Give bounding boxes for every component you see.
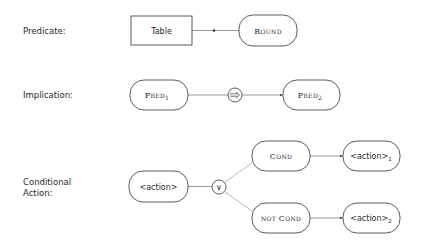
implication-label: Implication: (23, 90, 73, 100)
action-node: <action> (129, 171, 188, 202)
pred1-subscript: 1 (165, 94, 169, 101)
branch-edge-not-cond (225, 192, 252, 211)
action1-text: <action> (350, 152, 388, 161)
cond-node: Cond (252, 141, 310, 171)
row-predicate: Predicate: Table Round (23, 15, 297, 46)
predicate-label: Predicate: (23, 26, 66, 36)
action1-subscript: 1 (388, 156, 392, 162)
pred1-node: Pred1 (130, 80, 188, 110)
round-text: Round (254, 27, 282, 36)
table-node: Table (131, 16, 192, 45)
not-cond-text: not Cond (261, 214, 301, 223)
round-node: Round (239, 15, 297, 46)
svg-text:<action>1: <action>1 (350, 152, 392, 162)
junction-dot-icon (213, 29, 215, 31)
pred2-subscript: 2 (318, 94, 322, 101)
conditional-label-line1: Conditional (23, 177, 71, 187)
pred1-text: Pred (145, 91, 165, 100)
implies-operator (228, 88, 242, 102)
action2-text: <action> (350, 214, 388, 223)
row-implication: Implication: Pred1 Pred2 (23, 80, 340, 110)
svg-text:<action>2: <action>2 (350, 214, 392, 224)
pred2-node: Pred2 (283, 80, 340, 110)
action2-node: <action>2 (343, 203, 400, 233)
action2-subscript: 2 (388, 218, 392, 224)
cond-text: Cond (270, 152, 292, 161)
table-text: Table (150, 27, 172, 36)
action1-node: <action>1 (343, 141, 400, 171)
or-icon: ∨ (216, 183, 222, 192)
not-cond-node: not Cond (252, 203, 310, 233)
or-operator: ∨ (212, 180, 226, 194)
diagram-canvas: Predicate: Table Round Implication: Pred… (0, 0, 421, 245)
conditional-label-line2: Action: (23, 188, 52, 198)
branch-edge-cond (225, 163, 252, 182)
action-text: <action> (139, 183, 177, 192)
pred2-text: Pred (298, 91, 318, 100)
row-conditional-action: Conditional Action: <action> ∨ Cond not … (23, 141, 400, 233)
